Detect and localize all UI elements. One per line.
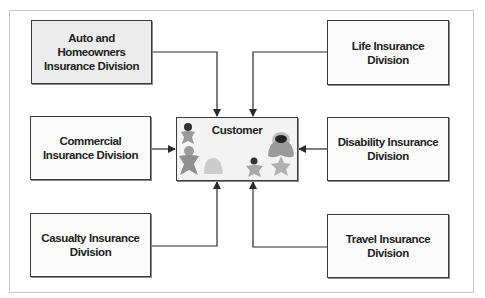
person-figure-icon (181, 123, 195, 144)
person-figure-icon (268, 132, 294, 157)
life-division-box: Life Insurance Division (327, 20, 449, 85)
disability-division-label: Disability Insurance Division (328, 135, 448, 163)
commercial-division-label: Commercial Insurance Division (31, 134, 150, 162)
commercial-division-box: Commercial Insurance Division (30, 116, 151, 180)
customer-box: Customer (176, 117, 298, 181)
person-figure-icon (204, 158, 223, 174)
edge-auto-customer (151, 52, 217, 116)
edge-travel-customer (253, 182, 327, 247)
auto-homeowners-division-label: Auto and Homeowners Insurance Division (32, 31, 151, 73)
travel-division-box: Travel Insurance Division (327, 214, 449, 278)
customer-figures-icon (177, 118, 296, 179)
auto-homeowners-division-box: Auto and Homeowners Insurance Division (31, 20, 152, 84)
edge-life-customer (253, 52, 327, 116)
person-figure-icon (271, 156, 291, 176)
casualty-division-label: Casualty Insurance Division (31, 231, 150, 259)
travel-division-label: Travel Insurance Division (328, 232, 448, 260)
person-figure-icon (246, 158, 263, 178)
casualty-division-box: Casualty Insurance Division (30, 213, 151, 277)
edge-casualty-customer (151, 182, 217, 246)
disability-division-box: Disability Insurance Division (327, 117, 449, 181)
person-figure-icon (179, 146, 199, 175)
life-division-label: Life Insurance Division (328, 39, 448, 67)
